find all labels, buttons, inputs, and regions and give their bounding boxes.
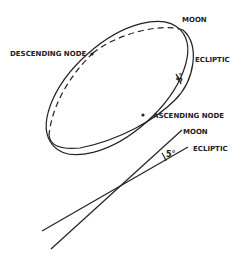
ascending-node-label: ASCENDING NODE bbox=[153, 112, 224, 120]
ecliptic-label-bottom: ECLIPTIC bbox=[193, 145, 228, 153]
angle-label-bottom: 5° bbox=[166, 150, 176, 159]
angle-label-top: 5° bbox=[175, 71, 188, 84]
orbit-illustration bbox=[23, 0, 211, 179]
ecliptic-dashed-back bbox=[93, 28, 183, 53]
ascending-node-point bbox=[141, 113, 144, 116]
moon-label-bottom: MOON bbox=[183, 128, 208, 136]
moon-orbit-diagram: MOON ECLIPTIC DESCENDING NODE ASCENDING … bbox=[0, 0, 244, 264]
moon-label-top: MOON bbox=[182, 16, 207, 24]
descending-node-label: DESCENDING NODE bbox=[10, 50, 86, 58]
descending-node-point bbox=[90, 52, 93, 55]
moon-line bbox=[51, 130, 182, 249]
ecliptic-label-top: ECLIPTIC bbox=[195, 56, 230, 64]
ecliptic-solid-front bbox=[49, 30, 193, 148]
